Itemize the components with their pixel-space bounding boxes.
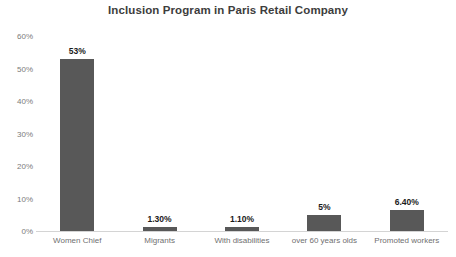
bar: [60, 59, 94, 231]
bar: [390, 210, 424, 231]
bar-value-label: 1.30%: [148, 214, 172, 224]
y-axis-tick-label: 20%: [3, 162, 33, 171]
y-axis-tick-label: 60%: [3, 32, 33, 41]
x-axis-category-label: Migrants: [118, 236, 200, 245]
bar-group: 53%: [36, 36, 118, 231]
x-axis-category-label: Promoted workers: [366, 236, 448, 245]
chart-title: Inclusion Program in Paris Retail Compan…: [0, 4, 456, 16]
bar: [225, 227, 259, 231]
bar: [143, 227, 177, 231]
bar: [307, 215, 341, 231]
y-axis-tick-label: 10%: [3, 194, 33, 203]
y-axis-tick-label: 30%: [3, 129, 33, 138]
bar-group: 1.10%: [201, 36, 283, 231]
y-axis-tick-label: 40%: [3, 97, 33, 106]
x-axis-category-label: With disabilities: [201, 236, 283, 245]
y-axis-tick-label: 50%: [3, 64, 33, 73]
y-axis: 60% 50% 40% 30% 20% 10% 0%: [0, 0, 33, 257]
plot-area: 53% 1.30% 1.10% 5% 6.40%: [36, 36, 448, 231]
bar-value-label: 53%: [69, 46, 86, 56]
bar-group: 6.40%: [366, 36, 448, 231]
bar-value-label: 6.40%: [395, 197, 419, 207]
x-axis-category-label: over 60 years olds: [283, 236, 365, 245]
bar-value-label: 5%: [318, 202, 330, 212]
x-axis-line: [36, 231, 448, 232]
bar-chart: Inclusion Program in Paris Retail Compan…: [0, 0, 456, 257]
y-axis-tick-label: 0%: [3, 227, 33, 236]
x-axis-category-label: Women Chief: [36, 236, 118, 245]
bar-group: 5%: [283, 36, 365, 231]
bar-value-label: 1.10%: [230, 214, 254, 224]
bar-group: 1.30%: [118, 36, 200, 231]
